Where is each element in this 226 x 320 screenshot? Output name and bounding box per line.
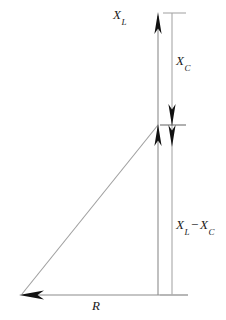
label-net-symbol-2: X (200, 217, 208, 232)
label-net-reactance: XL−XC (176, 218, 214, 235)
label-net-subscript-2: C (208, 227, 214, 237)
label-net-operator: − (189, 217, 200, 232)
label-xl-subscript: L (121, 17, 126, 27)
label-xc-subscript: C (184, 63, 190, 73)
label-net-subscript-1: L (184, 227, 189, 237)
label-xc-symbol: X (176, 53, 184, 68)
impedance-hypotenuse (22, 125, 158, 294)
label-capacitive-reactance: XC (176, 54, 190, 71)
label-net-symbol-1: X (176, 217, 184, 232)
label-resistance: R (92, 299, 100, 312)
phasor-triangle-canvas (0, 0, 226, 320)
impedance-phasor-diagram: XL XC XL−XC R (0, 0, 226, 320)
label-xl-symbol: X (113, 7, 121, 22)
label-r-symbol: R (92, 298, 100, 313)
label-inductive-reactance: XL (113, 8, 126, 25)
